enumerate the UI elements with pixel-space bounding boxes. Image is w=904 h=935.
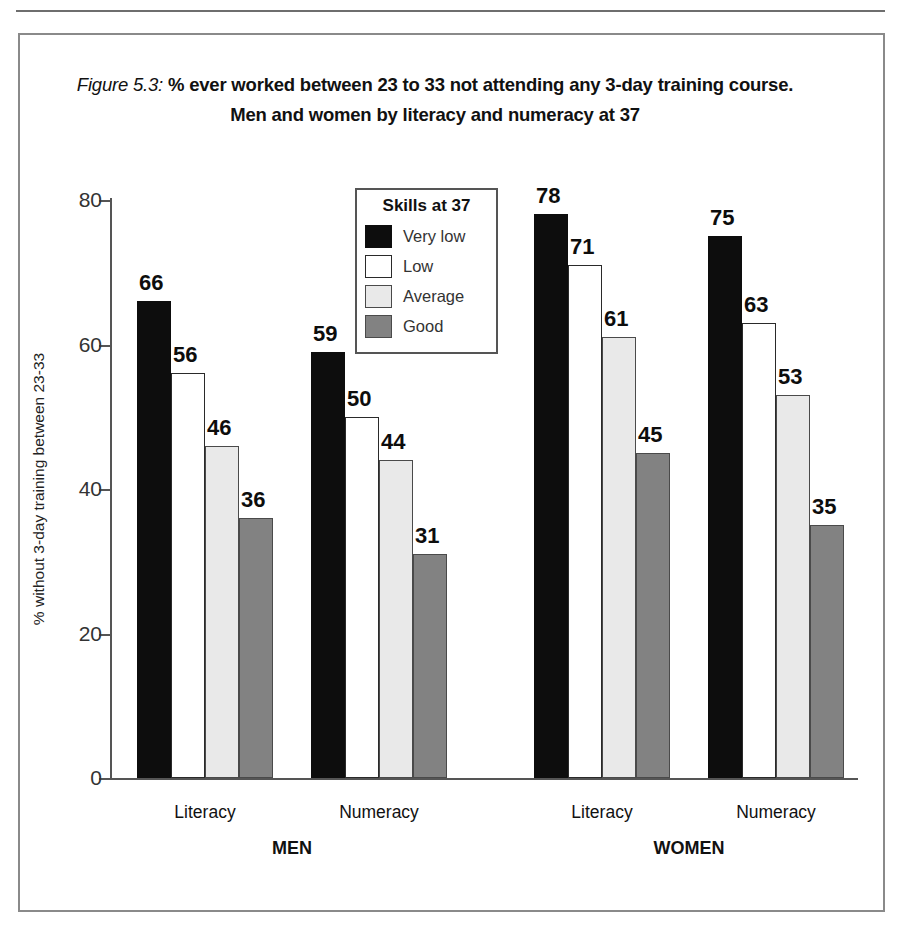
bar <box>534 214 568 778</box>
bar-value-label: 61 <box>604 306 628 332</box>
y-tick-label: 80 <box>79 188 102 212</box>
legend-label: Very low <box>403 227 465 246</box>
bar-value-label: 44 <box>381 429 405 455</box>
figure-page: Figure 5.3: % ever worked between 23 to … <box>0 0 904 935</box>
legend-item: Good <box>365 311 488 341</box>
bar <box>311 352 345 778</box>
chart-legend: Skills at 37 Very lowLowAverageGood <box>355 188 498 354</box>
bar-value-label: 59 <box>313 321 337 347</box>
legend-swatch-good <box>365 315 392 338</box>
bar <box>708 236 742 778</box>
bar <box>568 265 602 778</box>
x-axis-category-label: Literacy <box>571 802 632 823</box>
x-axis-group-label: MEN <box>272 838 312 859</box>
bar <box>636 453 670 778</box>
legend-swatch-average <box>365 285 392 308</box>
bar-value-label: 53 <box>778 364 802 390</box>
bar-value-label: 45 <box>638 422 662 448</box>
legend-item: Very low <box>365 221 488 251</box>
bar <box>171 373 205 778</box>
top-rule-divider <box>16 10 885 12</box>
legend-title: Skills at 37 <box>365 196 488 216</box>
caption-line-1: % ever worked between 23 to 33 not atten… <box>163 74 793 95</box>
bar-value-label: 36 <box>241 487 265 513</box>
y-tick-label: 20 <box>79 622 102 646</box>
figure-number: Figure 5.3: <box>77 74 163 95</box>
legend-item: Low <box>365 251 488 281</box>
x-axis-category-label: Numeracy <box>339 802 419 823</box>
legend-label: Low <box>403 257 433 276</box>
x-axis-category-label: Literacy <box>174 802 235 823</box>
caption-line-2: Men and women by literacy and numeracy a… <box>230 104 640 125</box>
y-tick-label: 0 <box>90 766 102 790</box>
bar <box>379 460 413 778</box>
bar-value-label: 46 <box>207 415 231 441</box>
bar <box>776 395 810 778</box>
bar <box>205 446 239 778</box>
legend-label: Average <box>403 287 464 306</box>
legend-item: Average <box>365 281 488 311</box>
x-axis-line <box>110 778 858 780</box>
bar <box>137 301 171 778</box>
bar-value-label: 56 <box>173 342 197 368</box>
bar-value-label: 66 <box>139 270 163 296</box>
bar <box>602 337 636 778</box>
figure-caption: Figure 5.3: % ever worked between 23 to … <box>40 70 830 130</box>
y-tick-label: 60 <box>79 333 102 357</box>
x-axis-category-label: Numeracy <box>736 802 816 823</box>
bar <box>413 554 447 778</box>
bar-value-label: 63 <box>744 292 768 318</box>
bar-value-label: 71 <box>570 234 594 260</box>
legend-items: Very lowLowAverageGood <box>365 221 488 341</box>
bar-value-label: 35 <box>812 494 836 520</box>
bar <box>810 525 844 778</box>
bar <box>742 323 776 778</box>
legend-swatch-low <box>365 255 392 278</box>
bar-value-label: 78 <box>536 183 560 209</box>
bar <box>345 417 379 778</box>
bar-value-label: 75 <box>710 205 734 231</box>
bar-value-label: 50 <box>347 386 371 412</box>
legend-swatch-verylow <box>365 225 392 248</box>
y-tick-label: 40 <box>79 477 102 501</box>
bar <box>239 518 273 778</box>
y-axis-title: % without 3-day training between 23-33 <box>30 200 52 778</box>
legend-label: Good <box>403 317 443 336</box>
x-axis-group-label: WOMEN <box>654 838 725 859</box>
bar-value-label: 31 <box>415 523 439 549</box>
